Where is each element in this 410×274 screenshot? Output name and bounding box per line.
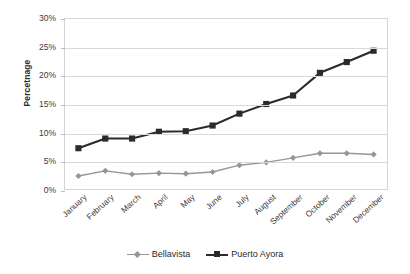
data-point-marker bbox=[209, 169, 215, 175]
data-point-marker bbox=[183, 171, 189, 177]
data-point-marker bbox=[317, 150, 323, 156]
data-point-marker bbox=[317, 70, 323, 76]
legend-label: Puerto Ayora bbox=[231, 249, 283, 259]
data-point-marker bbox=[129, 135, 135, 141]
data-point-marker bbox=[156, 170, 162, 176]
y-axis-tickmark bbox=[61, 105, 65, 106]
y-axis-tickmark bbox=[61, 48, 65, 49]
legend-label: Bellavista bbox=[152, 249, 191, 259]
data-point-marker bbox=[236, 111, 242, 117]
y-axis-tick-label: 5% bbox=[44, 156, 56, 166]
y-axis-tick-label: 15% bbox=[39, 99, 56, 109]
series-bellavista bbox=[75, 150, 376, 179]
line-chart: Percetnage 0%5%10%15%20%25%30% JanuaryFe… bbox=[0, 0, 410, 274]
gridline bbox=[65, 105, 387, 106]
data-point-marker bbox=[102, 168, 108, 174]
legend-marker bbox=[135, 251, 141, 257]
data-point-marker bbox=[210, 122, 216, 128]
data-point-marker bbox=[344, 150, 350, 156]
data-point-marker bbox=[75, 145, 81, 151]
x-axis-tick-labels: JanuaryFebruaryMarchAprilMayJuneJulyAugu… bbox=[64, 190, 388, 246]
y-axis-tick-label: 25% bbox=[39, 42, 56, 52]
legend-swatch bbox=[127, 249, 149, 259]
data-point-marker bbox=[102, 135, 108, 141]
chart-legend: BellavistaPuerto Ayora bbox=[0, 249, 410, 259]
y-axis-tick-label: 30% bbox=[39, 13, 56, 23]
series-line bbox=[78, 153, 373, 176]
data-point-marker bbox=[344, 59, 350, 65]
y-axis-tickmark bbox=[61, 134, 65, 135]
y-axis-tickmark bbox=[61, 76, 65, 77]
plot-area bbox=[64, 18, 388, 190]
gridline bbox=[65, 134, 387, 135]
legend-marker bbox=[214, 251, 220, 257]
y-axis-tickmark bbox=[61, 19, 65, 20]
legend-item-bellavista[interactable]: Bellavista bbox=[127, 249, 191, 259]
legend-item-puerto-ayora[interactable]: Puerto Ayora bbox=[206, 249, 283, 259]
gridline bbox=[65, 76, 387, 77]
gridline bbox=[65, 162, 387, 163]
data-point-marker bbox=[370, 151, 376, 157]
data-point-marker bbox=[263, 101, 269, 107]
gridline bbox=[65, 48, 387, 49]
y-axis-tickmark bbox=[61, 162, 65, 163]
data-point-marker bbox=[75, 173, 81, 179]
y-axis-tick-label: 10% bbox=[39, 128, 56, 138]
plot-svg bbox=[65, 19, 387, 189]
y-axis-tick-label: 0% bbox=[44, 185, 56, 195]
y-axis-tick-label: 20% bbox=[39, 70, 56, 80]
series-puerto-ayora bbox=[75, 48, 376, 152]
legend-swatch bbox=[206, 249, 228, 259]
data-point-marker bbox=[290, 155, 296, 161]
data-point-marker bbox=[290, 92, 296, 98]
y-axis-tick-labels: 0%5%10%15%20%25%30% bbox=[18, 18, 60, 190]
data-point-marker bbox=[129, 171, 135, 177]
